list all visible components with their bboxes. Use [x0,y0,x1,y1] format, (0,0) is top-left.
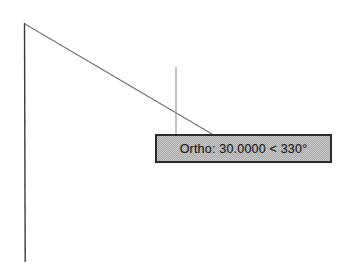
ortho-tooltip: Ortho: 30.0000 < 330° [155,134,332,163]
existing-vertical-line[interactable] [25,23,26,262]
ortho-tooltip-label: Ortho: 30.0000 < 330° [180,142,308,156]
drawing-canvas[interactable]: Ortho: 30.0000 < 330° [0,0,357,273]
rubber-band-line[interactable] [25,24,212,134]
